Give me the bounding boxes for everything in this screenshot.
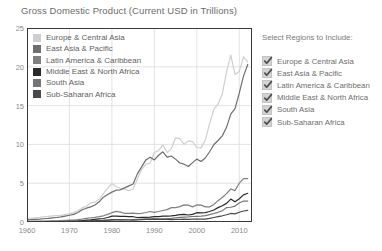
legend-item: Middle East & North Africa	[33, 66, 141, 77]
region-checkbox-row[interactable]: South Asia	[262, 104, 382, 116]
checkmark-icon	[263, 80, 273, 90]
y-tick-label: 25	[16, 24, 24, 33]
region-checkbox[interactable]	[262, 105, 272, 115]
x-tick-label: 1990	[146, 226, 163, 235]
x-tick-label: 1970	[61, 226, 78, 235]
x-tick-label: 2010	[231, 226, 248, 235]
legend-color-swatch	[33, 45, 41, 53]
region-checkbox[interactable]	[262, 117, 272, 127]
region-checkbox-row[interactable]: Europe & Central Asia	[262, 55, 382, 67]
y-tick-label: 20	[16, 62, 24, 71]
checkmark-icon	[263, 117, 273, 127]
checkmark-icon	[263, 56, 273, 66]
legend-color-swatch	[33, 79, 41, 87]
legend-item-label: East Asia & Pacific	[46, 44, 113, 53]
legend-item-label: Sub-Saharan Africa	[46, 90, 115, 99]
y-tick-label: 5	[20, 179, 24, 188]
region-checkbox-row[interactable]: East Asia & Pacific	[262, 67, 382, 79]
region-label: Sub-Saharan Africa	[277, 118, 345, 127]
checkmark-icon	[263, 68, 273, 78]
legend-item: Sub-Saharan Africa	[33, 88, 141, 99]
legend-item: East Asia & Pacific	[33, 43, 141, 54]
region-label: Europe & Central Asia	[277, 57, 354, 66]
legend-color-swatch	[33, 68, 41, 76]
x-tick-label: 1960	[19, 226, 36, 235]
chart-legend: Europe & Central AsiaEast Asia & Pacific…	[33, 32, 141, 100]
plot-area: 0510152025 196019701980199020002010 Euro…	[27, 28, 252, 222]
checkmark-icon	[263, 105, 273, 115]
region-label: Middle East & North Africa	[277, 93, 368, 102]
chart-panel: Gross Domestic Product (Current USD in T…	[0, 0, 258, 251]
region-label: Latin America & Caribbean	[277, 81, 370, 90]
legend-color-swatch	[33, 56, 41, 64]
legend-color-swatch	[33, 34, 41, 42]
gdp-chart-app: Gross Domestic Product (Current USD in T…	[0, 0, 382, 251]
region-label: East Asia & Pacific	[277, 69, 342, 78]
region-checkbox-row[interactable]: Middle East & North Africa	[262, 92, 382, 104]
region-label: South Asia	[277, 105, 314, 114]
region-checkbox[interactable]	[262, 56, 272, 66]
y-tick-label: 10	[16, 140, 24, 149]
checkmark-icon	[263, 93, 273, 103]
legend-item: Europe & Central Asia	[33, 32, 141, 43]
x-tick-label: 2000	[188, 226, 205, 235]
legend-item-label: Latin America & Caribbean	[46, 56, 141, 65]
y-tick-label: 15	[16, 101, 24, 110]
region-checkbox-row[interactable]: Sub-Saharan Africa	[262, 116, 382, 128]
region-checkbox-list[interactable]: Europe & Central AsiaEast Asia & Pacific…	[262, 55, 382, 128]
region-checkbox[interactable]	[262, 93, 272, 103]
legend-item-label: Middle East & North Africa	[46, 67, 139, 76]
legend-item: Latin America & Caribbean	[33, 55, 141, 66]
legend-item-label: South Asia	[46, 78, 84, 87]
legend-item: South Asia	[33, 77, 141, 88]
region-checkbox[interactable]	[262, 80, 272, 90]
legend-item-label: Europe & Central Asia	[46, 33, 125, 42]
legend-color-swatch	[33, 90, 41, 98]
region-filter-panel: Select Regions to Include: Europe & Cent…	[262, 0, 382, 251]
region-checkbox[interactable]	[262, 68, 272, 78]
x-tick-label: 1980	[104, 226, 121, 235]
region-checkbox-row[interactable]: Latin America & Caribbean	[262, 79, 382, 91]
chart-title: Gross Domestic Product (Current USD in T…	[0, 5, 258, 16]
region-filter-title: Select Regions to Include:	[262, 33, 353, 42]
